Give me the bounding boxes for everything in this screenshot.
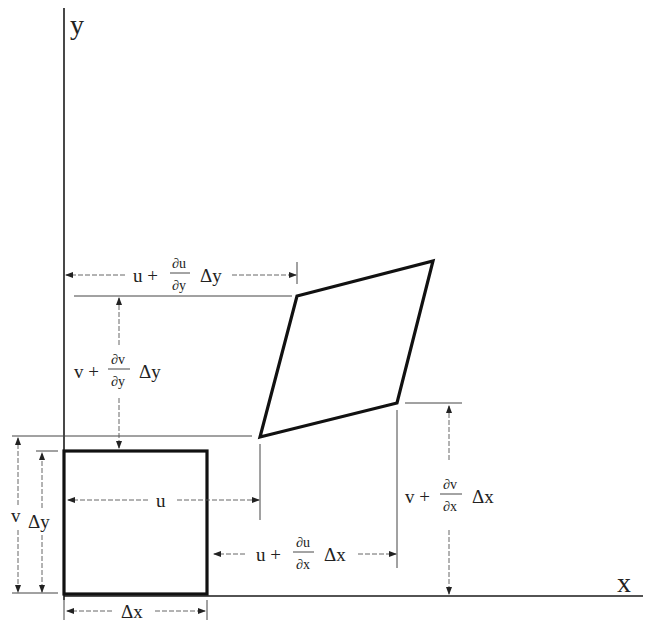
label-bottom-dx: Δx xyxy=(121,601,143,622)
label-side-v: v xyxy=(11,505,21,526)
svg-text:∂x: ∂x xyxy=(296,557,310,572)
deformed-element xyxy=(260,261,433,437)
svg-text:v +: v + xyxy=(405,486,430,507)
svg-text:u +: u + xyxy=(256,544,281,565)
svg-text:∂y: ∂y xyxy=(172,278,186,293)
x-axis-label: x xyxy=(617,567,631,598)
svg-text:∂v: ∂v xyxy=(443,477,457,492)
label-left-v: v + ∂v ∂y Δy xyxy=(74,352,161,389)
svg-text:u +: u + xyxy=(133,265,158,286)
label-mid-u: u xyxy=(156,490,166,511)
original-element xyxy=(64,451,207,594)
svg-text:Δx: Δx xyxy=(324,544,346,565)
label-bottom-u: u + ∂u ∂x Δx xyxy=(256,535,346,572)
label-right-v: v + ∂v ∂x Δx xyxy=(405,477,494,514)
label-top-u: u + ∂u ∂y Δy xyxy=(133,256,222,293)
y-axis-label: y xyxy=(70,9,84,40)
svg-text:∂v: ∂v xyxy=(111,352,125,367)
svg-text:Δy: Δy xyxy=(200,265,222,286)
svg-text:∂y: ∂y xyxy=(111,374,125,389)
svg-text:v +: v + xyxy=(74,361,99,382)
label-side-dy: Δy xyxy=(28,511,50,532)
svg-text:∂x: ∂x xyxy=(443,499,457,514)
svg-text:∂u: ∂u xyxy=(172,256,186,271)
svg-text:Δy: Δy xyxy=(139,361,161,382)
deformation-diagram: y x u + ∂u ∂y Δy v + ∂v ∂y Δy u u + ∂u xyxy=(0,0,647,638)
svg-text:∂u: ∂u xyxy=(296,535,310,550)
svg-text:Δx: Δx xyxy=(472,486,494,507)
